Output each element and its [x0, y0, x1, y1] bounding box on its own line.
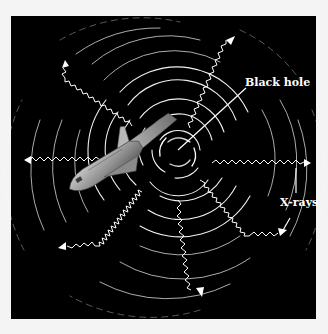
xrays-label: X-rays	[280, 196, 318, 209]
diagram-canvas	[0, 0, 328, 334]
black-hole	[163, 137, 193, 167]
black-hole-diagram: Black hole X-rays	[0, 0, 328, 334]
black-hole-label: Black hole	[245, 76, 310, 89]
space-background	[11, 16, 316, 319]
